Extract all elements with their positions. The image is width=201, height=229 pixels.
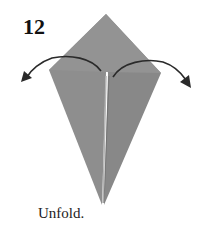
origami-diagram xyxy=(0,0,201,229)
step-caption: Unfold. xyxy=(38,206,84,221)
arrowhead-icon xyxy=(180,75,191,88)
paper-top-layer xyxy=(49,14,161,73)
